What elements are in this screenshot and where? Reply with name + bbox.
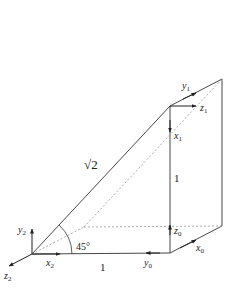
wedge-diagram: √2 1 1 45° x2 y2 z2 y0 z0 x0 y1 z1 x1 <box>0 0 234 289</box>
frame-arrows <box>9 93 196 266</box>
angle-label: 45° <box>76 241 90 252</box>
x0-label: x0 <box>195 242 204 255</box>
x2-label: x2 <box>45 257 54 270</box>
z0-label: z0 <box>173 225 182 238</box>
hidden-edges <box>32 79 222 254</box>
back-base-edge <box>84 226 222 227</box>
solid-edges <box>32 79 222 254</box>
y2-label: y2 <box>17 224 26 237</box>
hypotenuse-edge <box>32 106 170 254</box>
x0-arrow <box>180 240 196 248</box>
z2-label: z2 <box>3 270 12 283</box>
vertical-length-label: 1 <box>174 172 180 184</box>
z2-arrow <box>9 254 32 266</box>
angle-arc <box>59 225 72 254</box>
y1-arrow <box>183 93 196 99</box>
x1-label: x1 <box>173 130 182 143</box>
base-length-label: 1 <box>100 261 106 273</box>
top-edge <box>170 79 222 106</box>
z1-label: z1 <box>199 102 208 115</box>
y0-label: y0 <box>143 257 152 270</box>
y1-label: y1 <box>181 80 190 93</box>
sqrt2-label: √2 <box>84 157 98 172</box>
